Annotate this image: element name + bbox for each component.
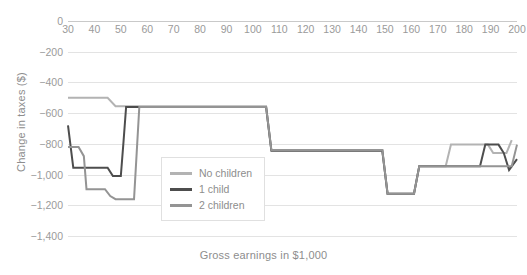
y-tick-label: −1,200 xyxy=(31,199,63,211)
legend-item-no-children: No children xyxy=(170,165,255,181)
legend-item-1-child: 1 child xyxy=(170,181,255,197)
series-group xyxy=(68,21,517,236)
y-tick-label: −1,000 xyxy=(31,169,63,181)
x-axis-title: Gross earnings in $1,000 xyxy=(0,249,527,261)
y-tick-label: −200 xyxy=(39,46,63,58)
y-tick-label: −800 xyxy=(39,138,63,150)
legend-label-1-child: 1 child xyxy=(199,183,229,195)
y-tick-label: −400 xyxy=(39,76,63,88)
legend-swatch-no-children xyxy=(170,172,192,175)
legend-swatch-1-child xyxy=(170,188,192,191)
y-tick-label: −1,400 xyxy=(31,230,63,242)
legend-swatch-2-children xyxy=(170,204,192,207)
legend-item-2-children: 2 children xyxy=(170,197,255,213)
plot-area: 0−200−400−600−800−1,000−1,200−1,400 3040… xyxy=(68,21,517,236)
y-axis-title: Change in taxes ($) xyxy=(15,37,27,207)
legend-label-2-children: 2 children xyxy=(199,199,245,211)
tax-change-line-chart: Change in taxes ($) Gross earnings in $1… xyxy=(0,0,527,275)
chart-legend: No children 1 child 2 children xyxy=(161,157,265,221)
legend-label-no-children: No children xyxy=(199,167,252,179)
y-tick-label: −600 xyxy=(39,107,63,119)
gridline-neg1400 xyxy=(68,236,517,237)
